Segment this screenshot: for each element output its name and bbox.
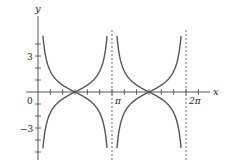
x-tick-label-pi: π	[114, 96, 122, 106]
chart: y x 3 0 −3 π 2π	[0, 0, 226, 166]
x-tick-label-2pi: 2π	[188, 96, 202, 106]
y-tick-label-neg3: −3	[20, 124, 34, 134]
y-axis-label: y	[34, 3, 41, 14]
y-tick-label-3: 3	[27, 52, 33, 62]
y-tick-label-0: 0	[27, 96, 33, 106]
x-axis-label: x	[213, 86, 219, 97]
